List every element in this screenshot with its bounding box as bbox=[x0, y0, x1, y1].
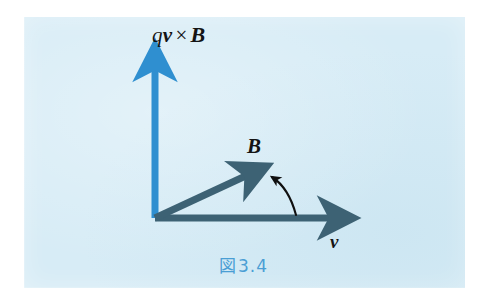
multiplication-sign-icon: × bbox=[172, 23, 190, 47]
vector-b bbox=[155, 173, 252, 218]
angle-pointer-arrow bbox=[272, 177, 296, 215]
label-v-axis: v bbox=[330, 232, 338, 251]
symbol-B: B bbox=[191, 22, 206, 47]
symbol-v: v bbox=[163, 23, 173, 47]
label-b-vector: B bbox=[247, 136, 261, 157]
label-qv-cross-b: qv×B bbox=[152, 24, 206, 46]
figure-screenshot: qv×B B v 図3.4 bbox=[0, 0, 487, 302]
figure-caption: 図3.4 bbox=[0, 252, 487, 277]
caption-number: 3.4 bbox=[238, 256, 268, 276]
symbol-q: q bbox=[152, 23, 163, 47]
caption-kanji: 図 bbox=[219, 256, 237, 276]
